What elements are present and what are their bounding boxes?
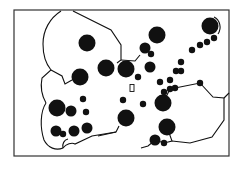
- node-small: [172, 85, 178, 91]
- node-small: [204, 39, 210, 45]
- node-small: [178, 59, 184, 65]
- node-small: [60, 131, 66, 137]
- node-medium: [145, 62, 156, 73]
- node-small: [157, 79, 163, 85]
- node-large: [155, 95, 172, 112]
- node-small: [197, 42, 203, 48]
- boundary-link-top: [121, 55, 140, 61]
- node-medium: [51, 126, 62, 137]
- boundary-right-poly: [172, 83, 224, 143]
- node-small: [161, 140, 167, 146]
- node-small: [197, 80, 203, 86]
- node-large: [118, 61, 135, 78]
- node-small: [120, 97, 126, 103]
- node-large: [149, 27, 166, 44]
- node-small: [80, 96, 86, 102]
- boundary-top-arc: [73, 11, 121, 63]
- node-medium: [69, 126, 80, 137]
- node-small: [83, 109, 89, 115]
- network-diagram: [0, 0, 240, 173]
- node-small: [211, 35, 217, 41]
- node-small: [135, 74, 141, 80]
- node-medium: [150, 135, 161, 146]
- node-small: [148, 51, 154, 57]
- diagram-canvas: [0, 0, 240, 173]
- node-small: [161, 89, 167, 95]
- rectangle-marker: [130, 85, 134, 92]
- nodes-group: [49, 18, 219, 147]
- frame-border: [14, 10, 229, 156]
- node-small: [178, 68, 184, 74]
- boundary-top-left: [41, 11, 61, 103]
- node-medium: [66, 106, 77, 117]
- node-small: [189, 47, 195, 53]
- node-large: [72, 69, 89, 86]
- node-large: [49, 100, 66, 117]
- boundary-inner-notch: [51, 70, 72, 84]
- node-medium: [82, 123, 93, 134]
- node-small: [140, 101, 146, 107]
- node-large: [159, 119, 176, 136]
- boundary-right-edge: [224, 93, 229, 98]
- node-large: [202, 18, 219, 35]
- node-large: [118, 110, 135, 127]
- node-large: [98, 60, 115, 77]
- node-large: [79, 35, 96, 52]
- node-small: [167, 77, 173, 83]
